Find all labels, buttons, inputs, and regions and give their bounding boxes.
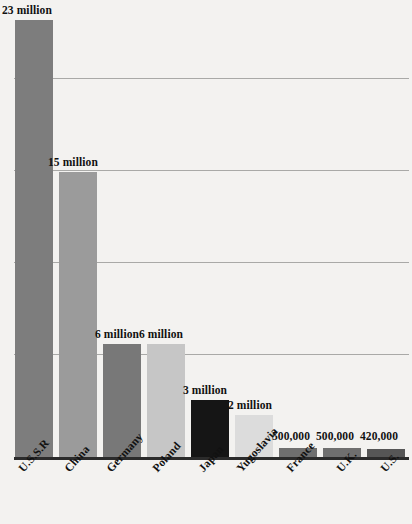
bar-value-label: 6 million — [139, 328, 183, 340]
bar-china — [59, 172, 97, 458]
bar-value-label: 500,000 — [316, 430, 354, 442]
bar-poland — [147, 344, 185, 458]
bar-value-label: 23 million — [2, 4, 52, 16]
bar-chart: 23 million15 million6 million6 million3 … — [0, 0, 412, 524]
bar-u-s-s-r — [15, 20, 53, 458]
gridline — [14, 78, 409, 79]
bar-value-label: 3 million — [183, 384, 227, 396]
gridline — [14, 170, 409, 171]
bar-value-label: 420,000 — [360, 430, 398, 442]
bar-value-label: 2 million — [228, 399, 272, 411]
bar-value-label: 15 million — [48, 156, 98, 168]
bar-value-label: 6 million — [95, 328, 139, 340]
